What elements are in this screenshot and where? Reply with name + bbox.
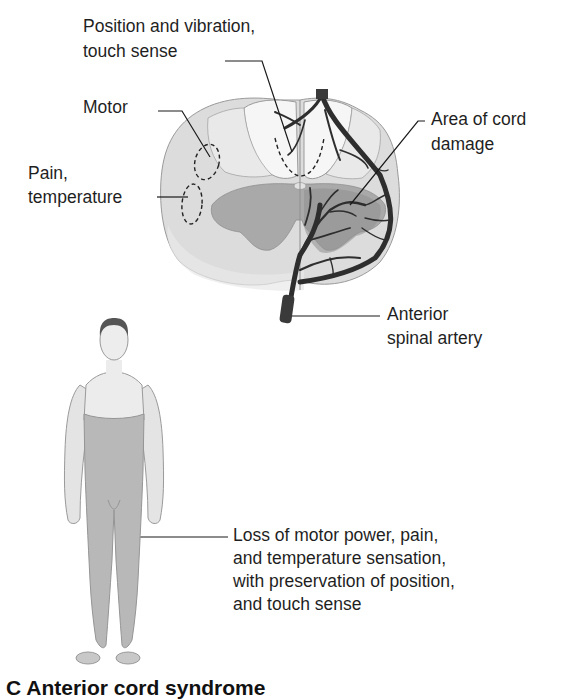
spinal-cord-cross-section [161, 89, 400, 324]
body-annotation-line1: Loss of motor power, pain, [233, 524, 438, 546]
label-cord-damage-line2: damage [431, 133, 494, 155]
label-pain-temperature-line1: Pain, [28, 162, 68, 184]
label-artery-line1: Anterior [387, 303, 448, 325]
label-motor: Motor [83, 96, 128, 118]
artery-stump [279, 294, 295, 323]
body-annotation-line4: and touch sense [233, 593, 361, 615]
label-cord-damage-line1: Area of cord [431, 108, 526, 130]
figure-caption: C Anterior cord syndrome [6, 676, 265, 700]
label-artery-line2: spinal artery [387, 327, 482, 349]
right-foot [116, 652, 140, 664]
body-annotation-line2: and temperature sensation, [233, 547, 446, 569]
label-position-vibration-line1: Position and vibration, [83, 15, 255, 37]
left-foot [76, 652, 100, 664]
body-annotation-line3: with preservation of position, [233, 570, 455, 592]
affected-region [84, 414, 144, 648]
human-body-figure [64, 318, 163, 664]
label-pain-temperature-line2: temperature [28, 186, 122, 208]
label-position-vibration-line2: touch sense [83, 40, 177, 62]
